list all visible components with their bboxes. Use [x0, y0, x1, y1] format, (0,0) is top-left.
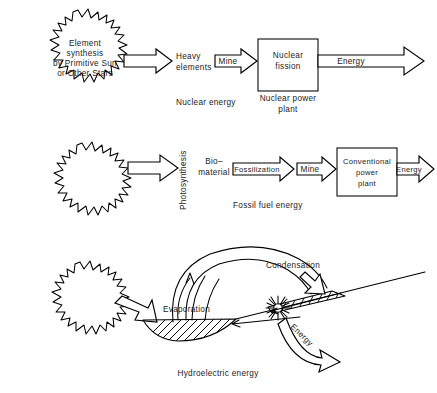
hydro-row: Evaporation Condensation Energy Hydroele… — [52, 247, 425, 378]
heavy-elements-line-1: Heavy — [176, 52, 201, 61]
nuclear-plant-caption-2: plant — [278, 105, 298, 114]
arrow-sun-to-heavy-elements — [124, 49, 172, 73]
fossilization-label: Fossilization — [234, 165, 280, 174]
nuclear-row: Element synthesis by Primitive Sun or Ot… — [50, 9, 424, 114]
nuclear-plant-caption-1: Nuclear power — [260, 94, 317, 103]
hydro-row-caption: Hydroelectric energy — [177, 369, 259, 378]
sun-label-line-3: by Primitive Sun — [53, 59, 117, 68]
energy-label-nuclear: Energy — [337, 57, 365, 66]
mine-label-fossil: Mine — [301, 165, 320, 174]
turbine-starburst-icon — [266, 296, 290, 320]
heavy-elements-line-2: elements — [176, 63, 212, 72]
return-flow-arrow-lower — [232, 317, 300, 327]
energy-label-fossil: Energy — [396, 165, 422, 174]
sun-icon-fossil — [54, 142, 131, 215]
conventional-plant-line-3: plant — [358, 179, 377, 188]
sun-label-line-1: Element — [69, 39, 102, 48]
photosynthesis-label: Photosynthesis — [179, 150, 188, 210]
biomaterial-line-2: material — [198, 168, 230, 177]
nuclear-plant-line-2: fission — [275, 62, 300, 71]
sun-icon-hydro — [52, 261, 129, 334]
fossil-row: Photosynthesis Bio– material Fossilizati… — [54, 142, 434, 215]
mine-label-nuclear-top: Mine — [219, 57, 238, 66]
conventional-plant-line-1: Conventional — [343, 157, 391, 166]
biomaterial-line-1: Bio– — [205, 157, 223, 166]
condensation-label: Condensation — [266, 261, 320, 270]
nuclear-row-caption: Nuclear energy — [176, 98, 236, 107]
evaporation-label: Evaporation — [163, 305, 210, 314]
conventional-plant-line-2: power — [356, 168, 378, 177]
fossil-row-caption: Fossil fuel energy — [233, 201, 303, 210]
sun-label-line-2: synthesis — [67, 49, 104, 58]
nuclear-plant-line-1: Nuclear — [273, 51, 303, 60]
water-hatching — [140, 310, 255, 345]
sun-label-line-4: or Other Stars — [57, 69, 113, 78]
arrow-sun-to-photosynthesis — [128, 155, 178, 181]
energy-flow-diagram: Element synthesis by Primitive Sun or Ot… — [0, 0, 437, 393]
